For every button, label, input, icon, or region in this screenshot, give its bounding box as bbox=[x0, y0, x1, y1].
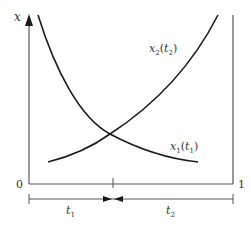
arrow-left-icon bbox=[114, 196, 123, 202]
diagram-canvas: x 0 1 x2(t2) x1(t1) t1 t2 bbox=[0, 0, 251, 225]
curve-x1-label: x1(t1) bbox=[170, 140, 198, 155]
curve-x2 bbox=[48, 15, 218, 162]
curve-x2-label: x2(t2) bbox=[149, 42, 177, 57]
interval-t1-label: t1 bbox=[66, 204, 75, 219]
y-axis-label: x bbox=[14, 10, 21, 24]
arrow-right-icon bbox=[103, 196, 112, 202]
y-axis bbox=[25, 14, 33, 184]
x-axis-end-label: 1 bbox=[238, 178, 245, 191]
arrow-up-icon bbox=[25, 14, 33, 26]
interval-range bbox=[29, 194, 233, 204]
x-axis-start-label: 0 bbox=[16, 178, 23, 191]
interval-t2-label: t2 bbox=[166, 204, 175, 219]
